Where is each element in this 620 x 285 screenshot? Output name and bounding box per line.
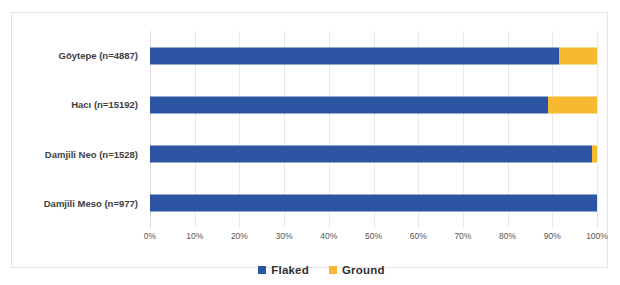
x-axis-tick-label: 40% (320, 231, 337, 241)
legend-item-ground[interactable]: Ground (329, 264, 385, 276)
bar-segment-ground[interactable] (548, 96, 597, 113)
bar-segment-ground[interactable] (592, 146, 597, 163)
legend-label: Flaked (271, 264, 309, 276)
bar-row (150, 31, 597, 80)
bars-layer (150, 31, 597, 228)
y-axis-labels: Göytepe (n=4887)Hacı (n=15192)Damjili Ne… (12, 31, 144, 228)
chart-frame: Göytepe (n=4887)Hacı (n=15192)Damjili Ne… (11, 12, 608, 268)
x-axis-tick-label: 30% (276, 231, 293, 241)
bar-segment-ground[interactable] (559, 47, 597, 64)
y-axis-category-label: Damjili Neo (n=1528) (45, 130, 138, 179)
x-axis-tick-label: 60% (410, 231, 427, 241)
legend-swatch-icon (258, 266, 266, 274)
legend-item-flaked[interactable]: Flaked (258, 264, 309, 276)
legend-label: Ground (342, 264, 385, 276)
bar-segment-flaked[interactable] (150, 195, 597, 212)
bar-segment-flaked[interactable] (150, 47, 559, 64)
chart-legend: FlakedGround (23, 261, 620, 279)
x-axis-tick-label: 100% (586, 231, 608, 241)
bar-track (150, 195, 597, 212)
bar-row (150, 80, 597, 129)
x-axis-tick-label: 20% (231, 231, 248, 241)
y-axis-category-label: Damjili Meso (n=977) (44, 179, 138, 228)
x-axis-tick-label: 70% (454, 231, 471, 241)
y-axis-category-label: Göytepe (n=4887) (59, 31, 138, 80)
x-axis-tick-label: 80% (499, 231, 516, 241)
bar-row (150, 179, 597, 228)
x-axis-tick-label: 90% (544, 231, 561, 241)
y-axis-category-label: Hacı (n=15192) (71, 80, 138, 129)
plot-area (150, 31, 597, 228)
bar-row (150, 130, 597, 179)
x-axis-tick-label: 10% (186, 231, 203, 241)
x-axis-tick-label: 50% (365, 231, 382, 241)
bar-track (150, 47, 597, 64)
bar-segment-flaked[interactable] (150, 96, 548, 113)
gridline-100pct (597, 31, 598, 228)
bar-segment-flaked[interactable] (150, 146, 592, 163)
bar-track (150, 96, 597, 113)
x-axis-tick-labels: 0%10%20%30%40%50%60%70%80%90%100% (150, 231, 597, 247)
chart-figure: Göytepe (n=4887)Hacı (n=15192)Damjili Ne… (0, 0, 620, 285)
legend-swatch-icon (329, 266, 337, 274)
x-axis-tick-label: 0% (144, 231, 156, 241)
bar-track (150, 146, 597, 163)
